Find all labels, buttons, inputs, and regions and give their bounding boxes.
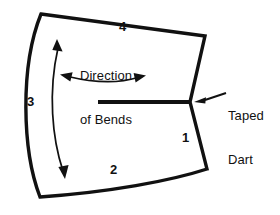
taped-dart-diagram: 4 3 2 1 Direction of Bends Taped Dart (0, 0, 280, 215)
direction-of-bends-line-1: Direction (64, 69, 148, 84)
taped-dart-annotation: Taped Dart (228, 80, 264, 196)
edge-label-1: 1 (182, 131, 189, 146)
direction-of-bends-line-2: of Bends (64, 113, 148, 128)
direction-of-bends-annotation: Direction of Bends (64, 40, 148, 156)
edge-label-4: 4 (119, 20, 126, 35)
taped-dart-line-1: Taped (228, 109, 264, 124)
edge-label-2: 2 (110, 163, 117, 178)
edge-label-3: 3 (27, 95, 34, 110)
leader-arrow-icon (194, 93, 226, 104)
taped-dart-line-2: Dart (228, 153, 264, 168)
